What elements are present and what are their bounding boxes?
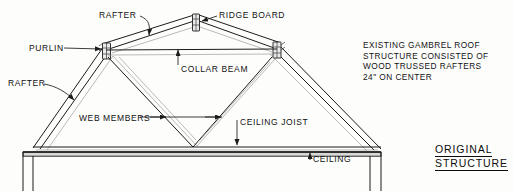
- note-block: EXISTING GAMBREL ROOF STRUCTURE CONSISTE…: [363, 40, 489, 82]
- label-purlin: PURLIN: [29, 44, 64, 53]
- note-line: EXISTING GAMBREL ROOF: [363, 40, 489, 51]
- title-line: STRUCTURE: [435, 157, 508, 171]
- title-line-text: STRUCTURE: [435, 157, 508, 171]
- label-ridge-board: RIDGE BOARD: [219, 11, 285, 20]
- label-ceiling: CEILING: [313, 155, 351, 164]
- label-ceiling-joist: CEILING JOIST: [240, 118, 308, 127]
- label-rafter-left: RAFTER: [8, 79, 46, 88]
- roof-lower-slopes: [33, 45, 381, 150]
- note-line: STRUCTURE CONSISTED OF: [363, 51, 489, 62]
- title-line-text: ORIGINAL: [435, 143, 492, 157]
- note-line: 24" ON CENTER: [363, 72, 489, 83]
- collar-beam-member: [106, 49, 277, 55]
- label-collar-beam: COLLAR BEAM: [181, 65, 248, 74]
- ceiling-joist-member: [33, 147, 381, 150]
- leader-rafter-top: [140, 16, 149, 35]
- note-line: WOOD TRUSSED RAFTERS: [363, 61, 489, 72]
- label-web-members: WEB MEMBERS: [79, 114, 150, 123]
- purlin-joint-right: [273, 42, 285, 58]
- roof-upper-slopes: [102, 15, 281, 50]
- leader-rafter-left: [44, 84, 74, 100]
- gambrel-roof-drawing: RAFTER RIDGE BOARD PURLIN RAFTER COLLAR …: [0, 0, 514, 191]
- ridge-board-detail: [193, 14, 200, 31]
- leader-purlin: [64, 48, 101, 49]
- wall-right: [370, 152, 381, 191]
- wall-left: [23, 152, 33, 191]
- title-block: ORIGINAL STRUCTURE: [435, 143, 508, 171]
- label-rafter-top: RAFTER: [99, 11, 137, 20]
- title-line: ORIGINAL: [435, 143, 508, 157]
